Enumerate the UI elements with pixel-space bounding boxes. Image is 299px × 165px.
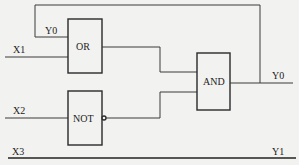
not-gate-label: NOT [73, 113, 94, 124]
not-to-and-wire [106, 92, 197, 118]
or-gate-label: OR [76, 41, 90, 52]
x3-label: X3 [12, 146, 24, 157]
y0-output-label: Y0 [272, 70, 284, 81]
logic-diagram: Y0 X1 X2 X3 OR NOT AND Y0 Y1 [0, 0, 299, 165]
and-gate-label: AND [203, 76, 225, 87]
or-to-and-wire [102, 47, 197, 72]
inversion-bubble-icon [102, 116, 106, 120]
x2-label: X2 [13, 105, 25, 116]
y1-output-label: Y1 [272, 146, 284, 157]
x1-label: X1 [13, 44, 25, 55]
y0-feedback-label: Y0 [45, 25, 57, 36]
